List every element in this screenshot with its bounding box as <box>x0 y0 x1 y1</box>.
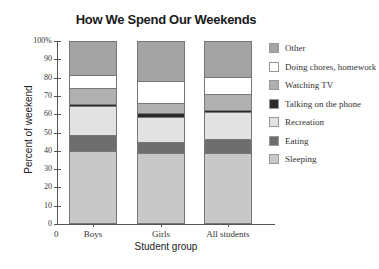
x-axis-label: Student group <box>60 241 272 252</box>
segment-doing-chores-homework <box>70 76 116 89</box>
y-tick-label: 90 <box>44 55 52 63</box>
segment-recreation <box>138 118 184 143</box>
legend-label: Other <box>285 43 306 53</box>
y-tick <box>54 41 61 42</box>
segment-eating <box>205 140 251 154</box>
y-tick <box>54 96 61 97</box>
y-axis-label: Percent of weekend <box>23 80 34 180</box>
segment-doing-chores-homework <box>205 78 251 94</box>
y-tick <box>54 224 61 225</box>
x-tick <box>161 224 162 227</box>
legend-swatch <box>269 80 279 90</box>
segment-other <box>138 42 184 82</box>
x-tick <box>93 224 94 227</box>
y-tick-label: 80 <box>44 74 52 82</box>
y-tick <box>54 114 61 115</box>
y-tick-label: 30 <box>44 165 52 173</box>
y-tick <box>54 169 61 170</box>
x-category-label: All students <box>188 229 268 239</box>
legend-label: Sleeping <box>285 154 317 164</box>
chart-title: How We Spend Our Weekends <box>60 12 272 27</box>
legend-label: Doing chores, homework <box>285 62 376 72</box>
segment-recreation <box>70 107 116 136</box>
legend-swatch <box>269 154 279 164</box>
segment-recreation <box>205 113 251 140</box>
legend-label: Talking on the phone <box>285 99 361 109</box>
segment-eating <box>138 143 184 154</box>
segment-eating <box>70 136 116 152</box>
segment-watching-tv <box>70 89 116 105</box>
y-tick-label: 40 <box>44 147 52 155</box>
legend-item: Talking on the phone <box>269 95 376 114</box>
y-tick-label: 0 <box>48 220 52 228</box>
y-tick <box>54 187 61 188</box>
y-tick <box>54 59 61 60</box>
x-axis-line <box>57 224 275 225</box>
legend-item: Doing chores, homework <box>269 58 376 77</box>
y-tick <box>54 206 61 207</box>
legend-swatch <box>269 136 279 146</box>
bar-girls <box>137 41 185 224</box>
legend-swatch <box>269 99 279 109</box>
legend-label: Watching TV <box>285 80 333 90</box>
segment-watching-tv <box>205 95 251 111</box>
legend-swatch <box>269 62 279 72</box>
legend-item: Recreation <box>269 113 376 132</box>
segment-other <box>70 42 116 76</box>
legend-swatch <box>269 43 279 53</box>
bar-all-students <box>204 41 252 224</box>
segment-other <box>205 42 251 78</box>
bar-boys <box>69 41 117 224</box>
legend: OtherDoing chores, homeworkWatching TVTa… <box>269 39 376 169</box>
y-tick-label: 10 <box>44 202 52 210</box>
segment-watching-tv <box>138 104 184 115</box>
segment-sleeping <box>70 152 116 223</box>
y-tick <box>54 133 61 134</box>
legend-item: Other <box>269 39 376 58</box>
legend-item: Sleeping <box>269 150 376 169</box>
y-tick-label: 100% <box>33 37 52 45</box>
legend-item: Watching TV <box>269 76 376 95</box>
y-tick-label: 70 <box>44 92 52 100</box>
x-tick <box>228 224 229 227</box>
y-tick-label: 20 <box>44 183 52 191</box>
legend-label: Recreation <box>285 117 324 127</box>
segment-sleeping <box>205 154 251 223</box>
y-tick-label: 60 <box>44 110 52 118</box>
legend-label: Eating <box>285 136 309 146</box>
legend-swatch <box>269 117 279 127</box>
legend-item: Eating <box>269 132 376 151</box>
y-tick <box>54 78 61 79</box>
y-tick <box>54 151 61 152</box>
segment-sleeping <box>138 154 184 223</box>
y-tick-label: 50 <box>44 129 52 137</box>
segment-doing-chores-homework <box>138 82 184 104</box>
